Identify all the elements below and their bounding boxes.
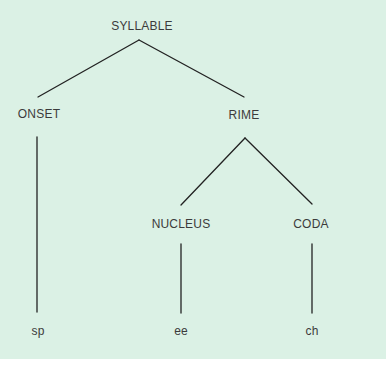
leaf-onset-sp: sp [31,325,44,337]
edge-rime-coda [245,138,312,204]
node-coda: CODA [293,218,328,230]
leaf-coda-ch: ch [305,325,318,337]
leaf-nucleus-ee: ee [174,325,188,337]
node-nucleus: NUCLEUS [152,218,211,230]
edge-syllable-onset [38,40,139,97]
tree-edges [0,0,386,368]
edge-rime-nucleus [181,138,245,205]
node-syllable: SYLLABLE [111,20,173,32]
node-onset: ONSET [18,108,60,120]
edge-syllable-rime [139,40,244,97]
node-rime: RIME [229,109,260,121]
